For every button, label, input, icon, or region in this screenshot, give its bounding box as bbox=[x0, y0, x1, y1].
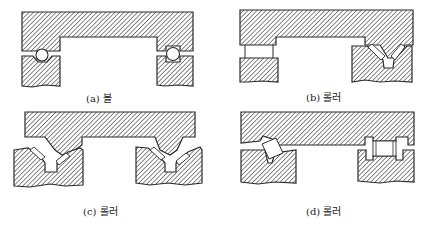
caption-d: (d) 롤러 bbox=[306, 203, 341, 218]
roller-c-gap-left bbox=[46, 158, 56, 171]
rail-left-b bbox=[240, 58, 278, 82]
panel-b bbox=[240, 10, 413, 82]
linear-guide-diagram bbox=[0, 0, 424, 225]
carriage-a bbox=[22, 12, 193, 51]
ball-left-icon bbox=[36, 49, 48, 61]
carriage-b bbox=[240, 10, 413, 58]
rail-right-b bbox=[352, 46, 412, 82]
caption-c: (c) 롤러 bbox=[83, 203, 118, 218]
panel-c bbox=[14, 112, 202, 187]
caption-a: (a) 볼 bbox=[86, 90, 112, 105]
panel-a bbox=[22, 12, 193, 87]
ball-right-icon bbox=[167, 48, 180, 61]
panel-d bbox=[241, 112, 414, 184]
roller-cross-icon bbox=[373, 141, 396, 156]
carriage-c bbox=[25, 112, 195, 155]
carriage-d bbox=[241, 112, 414, 145]
roller-c-gap-right bbox=[166, 158, 175, 171]
caption-b: (b) 롤러 bbox=[306, 89, 341, 104]
